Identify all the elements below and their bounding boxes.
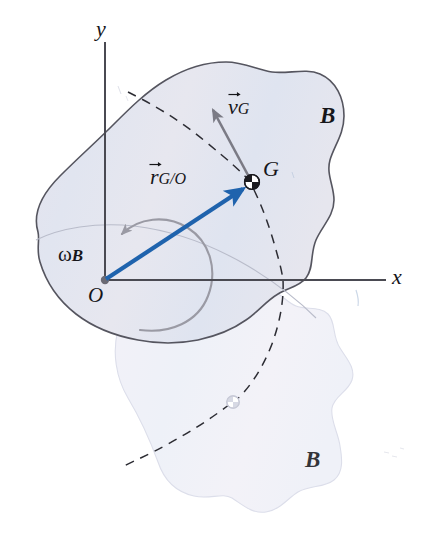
x-axis-label: x <box>392 266 402 288</box>
body-label-current: B <box>320 104 335 127</box>
body-label-ghost: B <box>305 448 320 471</box>
mechanics-figure: y x O B B G v G r G/O ωB <box>0 0 429 534</box>
angular-velocity-label: ωB <box>58 244 83 265</box>
diagram-canvas <box>0 0 429 534</box>
center-of-mass-marker-ghost <box>227 396 239 408</box>
velocity-vector-label: v G <box>228 96 249 118</box>
center-of-mass-marker <box>245 175 260 190</box>
center-of-mass-label: G <box>263 158 279 180</box>
velocity-subscript: G <box>238 100 250 117</box>
velocity-symbol: v <box>228 96 238 118</box>
angular-velocity-subscript: B <box>72 246 83 265</box>
y-axis-label: y <box>96 18 106 40</box>
angular-velocity-symbol: ω <box>58 244 72 265</box>
position-subscript: G/O <box>159 170 187 187</box>
position-symbol: r <box>150 166 159 188</box>
origin-label: O <box>88 285 103 306</box>
position-vector-label: r G/O <box>150 166 186 188</box>
